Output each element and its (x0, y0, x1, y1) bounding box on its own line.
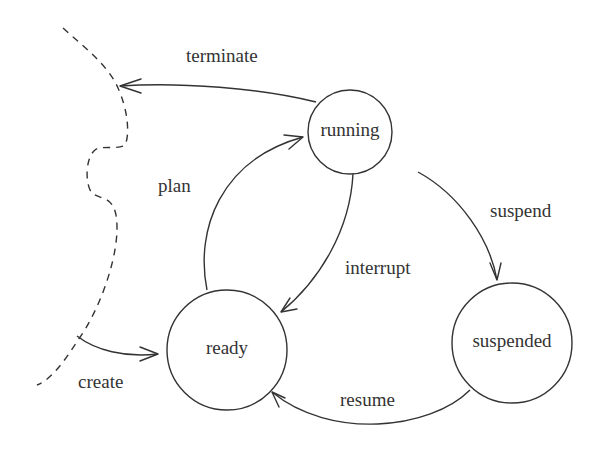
create-label: create (78, 371, 123, 392)
plan-label: plan (158, 175, 191, 196)
state-running[interactable]: running (308, 90, 392, 174)
state-suspended-label: suspended (472, 330, 552, 351)
suspend-edge (418, 172, 497, 280)
transition-terminate[interactable]: terminate (120, 45, 316, 102)
interrupt-label: interrupt (345, 257, 411, 278)
interrupt-edge (281, 174, 353, 312)
state-ready[interactable]: ready (167, 290, 287, 410)
system-boundary-dashed-line (37, 28, 128, 385)
terminate-edge (120, 85, 316, 102)
transition-plan[interactable]: plan (158, 135, 303, 290)
create-edge (77, 336, 158, 355)
resume-label: resume (340, 389, 395, 410)
state-running-label: running (320, 119, 380, 140)
process-state-diagram: running ready suspended terminate plan i… (0, 0, 593, 454)
transition-interrupt[interactable]: interrupt (281, 174, 411, 312)
plan-edge (204, 137, 303, 290)
transition-suspend[interactable]: suspend (418, 172, 552, 280)
terminate-label: terminate (186, 45, 258, 66)
suspend-label: suspend (490, 200, 552, 221)
state-ready-label: ready (206, 337, 249, 358)
state-suspended[interactable]: suspended (452, 283, 572, 403)
transition-resume[interactable]: resume (272, 389, 470, 424)
transition-create[interactable]: create (77, 336, 158, 392)
